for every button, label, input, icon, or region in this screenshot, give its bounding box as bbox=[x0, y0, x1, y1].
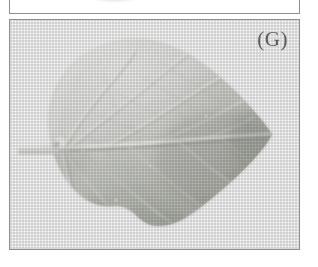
leaf-photograph-svg bbox=[10, 20, 299, 249]
lamina-interior bbox=[10, 20, 299, 249]
leaf-lamina bbox=[10, 20, 299, 249]
leaf-photograph bbox=[10, 20, 299, 249]
figure-panel-g: (G) bbox=[9, 19, 300, 250]
panel-label-g: (G) bbox=[257, 29, 288, 50]
cropped-specimen-smudge bbox=[92, 0, 140, 2]
figure-sheet: (G) bbox=[0, 0, 318, 267]
figure-panel-above bbox=[9, 0, 300, 14]
